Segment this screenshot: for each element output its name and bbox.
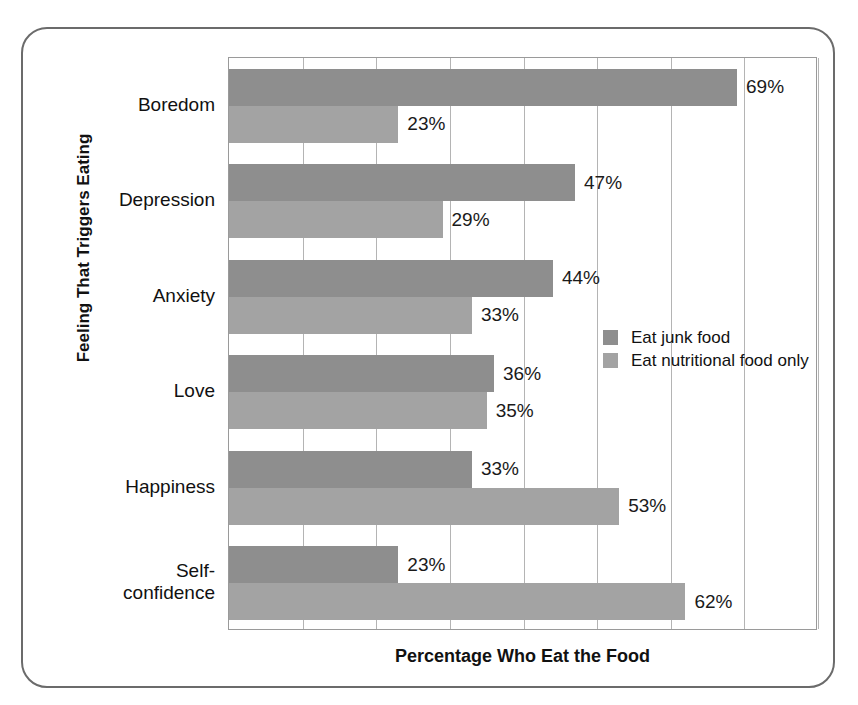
chart-legend: Eat junk foodEat nutritional food only <box>603 326 809 372</box>
bar-chart: Feeling That Triggers Eating 69%23%47%29… <box>0 0 858 705</box>
category-label: Love <box>40 380 215 402</box>
bar-group: 23%62% <box>229 536 816 632</box>
bar: 69% <box>229 69 737 106</box>
legend-swatch-icon <box>603 353 618 368</box>
legend-label: Eat junk food <box>631 328 730 348</box>
bar-value-label: 36% <box>503 363 541 385</box>
bar-value-label: 62% <box>694 591 732 613</box>
bar-value-label: 35% <box>496 400 534 422</box>
bar: 47% <box>229 164 575 201</box>
bar-value-label: 33% <box>481 458 519 480</box>
legend-swatch-icon <box>603 330 618 345</box>
bar-value-label: 23% <box>407 554 445 576</box>
bar-group: 33%53% <box>229 440 816 536</box>
bar-group: 47%29% <box>229 154 816 250</box>
bar: 44% <box>229 260 553 297</box>
bar-value-label: 69% <box>746 76 784 98</box>
gridline-80 <box>818 58 819 629</box>
bar: 35% <box>229 392 487 429</box>
category-label: Anxiety <box>40 285 215 307</box>
legend-item: Eat junk food <box>603 326 809 349</box>
bar-value-label: 33% <box>481 304 519 326</box>
legend-item: Eat nutritional food only <box>603 349 809 372</box>
bar-value-label: 47% <box>584 172 622 194</box>
bar: 23% <box>229 106 398 143</box>
category-label: Boredom <box>40 94 215 116</box>
bar-value-label: 23% <box>407 113 445 135</box>
bar: 29% <box>229 201 443 238</box>
bar: 36% <box>229 355 494 392</box>
bar: 33% <box>229 297 472 334</box>
bar-value-label: 44% <box>562 267 600 289</box>
bar-group: 69%23% <box>229 58 816 154</box>
bar: 53% <box>229 488 619 525</box>
bar-value-label: 29% <box>452 209 490 231</box>
bar: 23% <box>229 546 398 583</box>
category-label: Depression <box>40 189 215 211</box>
category-label: Self- confidence <box>40 560 215 604</box>
legend-label: Eat nutritional food only <box>631 351 809 371</box>
bar: 33% <box>229 451 472 488</box>
y-axis-title: Feeling That Triggers Eating <box>74 118 94 378</box>
category-label: Happiness <box>40 476 215 498</box>
bar: 62% <box>229 583 685 620</box>
x-axis-title: Percentage Who Eat the Food <box>228 646 817 667</box>
bar-value-label: 53% <box>628 495 666 517</box>
